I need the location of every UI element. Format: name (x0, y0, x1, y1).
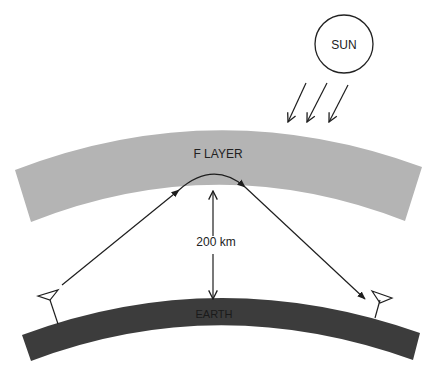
sun-label: SUN (331, 38, 356, 52)
distance-label: 200 km (196, 235, 235, 249)
sun-icon: SUN (315, 15, 373, 73)
diagram: SUN F LAYER EARTH 200 km (0, 0, 437, 372)
transmitter-antenna-icon (38, 290, 58, 324)
f-layer-label: F LAYER (193, 147, 242, 161)
sun-rays (288, 83, 348, 122)
earth-label: EARTH (195, 308, 232, 320)
receiver-antenna-icon (372, 291, 392, 318)
f-layer (15, 130, 422, 222)
